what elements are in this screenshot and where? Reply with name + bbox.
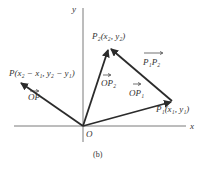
vector-p1p2-label-group: P₁P₂ [142, 52, 163, 68]
point-p2-label: P₂(x₂, y₂) [91, 31, 125, 41]
vector-op-label: OP [28, 92, 40, 102]
x-axis-label: x [189, 121, 194, 131]
vector-op [21, 83, 83, 126]
figure-caption: (b) [93, 150, 103, 159]
vector-op2 [83, 50, 108, 126]
vector-op1-label: OP₁ [129, 88, 144, 98]
vector-p1p2-label: P₁P₂ [142, 57, 160, 67]
vector-op2-label-group: OP₂ [101, 74, 116, 89]
vector-op2-label: OP₂ [101, 78, 116, 88]
vector-op1-label-group: OP₁ [129, 83, 144, 99]
vector-op-label-group: OP [28, 90, 40, 103]
origin-label: O [86, 129, 93, 139]
point-p1-label: P₁(x₁, y₁) [155, 104, 189, 114]
point-p-label: P(x₂ − x₁, y₂ − y₁) [8, 68, 75, 78]
vector-diagram: y x O P(x₂ − x₁, y₂ − y₁) P₂(x₂, y₂) P₁(… [0, 0, 206, 173]
y-axis-label: y [71, 4, 76, 14]
